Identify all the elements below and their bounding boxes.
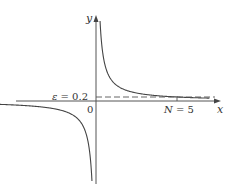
x-axis-label: x xyxy=(217,103,224,116)
n-label: N = 5 xyxy=(163,104,194,115)
series-line-right-branch xyxy=(100,21,209,98)
axes xyxy=(16,15,221,184)
origin-label: 0 xyxy=(87,104,93,115)
epsilon-label: ε = 0.2 xyxy=(52,91,88,102)
y-axis-arrow-icon xyxy=(94,15,99,22)
epsilon-value: = 0.2 xyxy=(57,91,88,102)
y-axis-label: y xyxy=(85,12,93,25)
chart: x y 0 ε = 0.2 N = 5 xyxy=(0,0,235,190)
series-line-left-branch xyxy=(0,104,92,181)
annotations xyxy=(96,96,215,101)
n-value: = 5 xyxy=(173,104,194,115)
